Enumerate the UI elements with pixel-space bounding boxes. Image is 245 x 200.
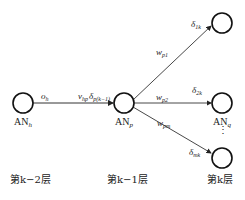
node-out-1 [212,13,232,33]
output-oh-label: oh [41,91,49,102]
weight-wp2-label: wp2 [156,92,168,103]
delta-1k-label: δ1k [191,19,201,30]
ellipsis-vertical: ⋮ [218,124,228,135]
node-h-label: ANh [14,116,32,129]
layer-k-minus-2-caption: 第k−2层 [10,173,51,185]
edge-p-to-1 [133,26,211,100]
delta-2k-label: δ2k [192,85,202,96]
weight-wp1-label: wp1 [156,47,168,58]
layer-k-caption: 第k层 [207,173,233,185]
node-an-q [212,93,232,113]
delta-p-km1-label: δp(k−1) [89,91,110,103]
delta-mk-label: δmk [189,147,201,158]
node-an-p [114,93,134,113]
node-an-h [13,93,33,113]
layer-k-minus-1-caption: 第k−1层 [107,173,148,185]
weight-wpm-label: wpm [157,118,171,129]
node-p-label: ANp [115,116,133,129]
bp-network-diagram: ANh ANp ANq oh vhp δp(k−1) wp1 δ1k wp2 δ… [0,0,245,200]
weight-vhp-label: vhp [78,91,88,102]
edge-p-to-m [133,107,211,153]
node-out-m [212,148,232,168]
